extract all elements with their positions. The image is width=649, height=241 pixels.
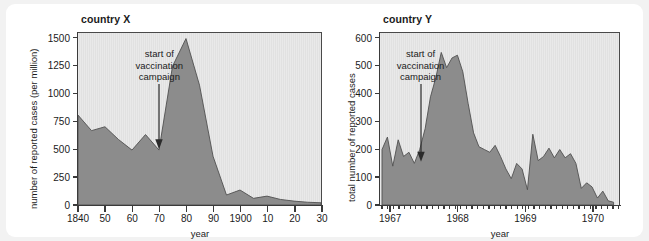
- y-tick-label: 1250: [48, 60, 70, 71]
- y-tick-label: 500: [355, 60, 372, 71]
- x-tick: [457, 206, 458, 212]
- y-tick-label: 600: [355, 32, 372, 43]
- x-tick-label: 1840: [67, 213, 89, 224]
- x-tick: [321, 206, 322, 212]
- y-tick: [73, 149, 77, 150]
- x-minor-tick: [443, 206, 444, 209]
- x-minor-tick: [398, 206, 399, 209]
- y-tick: [73, 204, 77, 205]
- y-tick-label: 750: [53, 116, 70, 127]
- x-tick: [294, 206, 295, 212]
- x-minor-tick: [573, 206, 574, 209]
- chart-page: country X number of reported cases (per …: [0, 0, 649, 241]
- y-tick-label: 0: [366, 200, 372, 211]
- x-minor-tick: [517, 206, 518, 209]
- x-tick: [159, 206, 160, 212]
- x-tick: [213, 206, 214, 212]
- x-minor-tick: [432, 206, 433, 209]
- x-tick-label: 1900: [230, 213, 252, 224]
- x-minor-tick: [393, 206, 394, 209]
- figure-country-x: country X number of reported cases (per …: [20, 4, 332, 237]
- x-tick-label: 90: [208, 213, 219, 224]
- x-tick-label: 60: [127, 213, 138, 224]
- x-tick-label: 30: [316, 213, 327, 224]
- x-tick-label: 70: [154, 213, 165, 224]
- x-tick-label: 1968: [447, 213, 469, 224]
- y-tick-label: 250: [53, 172, 70, 183]
- x-minor-tick: [455, 206, 456, 209]
- x-tick: [104, 206, 105, 212]
- x-minor-tick: [522, 206, 523, 209]
- x-minor-tick: [471, 206, 472, 209]
- x-tick: [240, 206, 241, 212]
- y-tick: [73, 176, 77, 177]
- x-axis-title-country-x: year: [78, 228, 322, 239]
- x-tick: [186, 206, 187, 212]
- x-tick: [267, 206, 268, 212]
- x-minor-tick: [567, 206, 568, 209]
- annotation-country-y: start of vaccination campaign: [377, 48, 465, 83]
- x-minor-tick: [438, 206, 439, 209]
- y-tick-label: 100: [355, 172, 372, 183]
- x-minor-tick: [584, 206, 585, 209]
- x-minor-tick: [483, 206, 484, 209]
- figure-panel: country X number of reported cases (per …: [6, 4, 643, 237]
- x-axis-title-country-y: year: [380, 228, 620, 239]
- x-axis-line-country-x: [77, 205, 323, 206]
- x-minor-tick: [404, 206, 405, 209]
- x-minor-tick: [500, 206, 501, 209]
- x-minor-tick: [601, 206, 602, 209]
- chart-title-country-x: country X: [81, 13, 130, 25]
- x-minor-tick: [618, 206, 619, 209]
- x-tick-label: 1969: [514, 213, 536, 224]
- x-minor-tick: [578, 206, 579, 209]
- x-minor-tick: [590, 206, 591, 209]
- x-tick: [525, 206, 526, 212]
- x-tick-label: 20: [289, 213, 300, 224]
- x-tick: [77, 206, 78, 212]
- y-tick-label: 300: [355, 116, 372, 127]
- x-minor-tick: [477, 206, 478, 209]
- y-tick: [375, 93, 379, 94]
- chart-title-country-y: country Y: [383, 13, 432, 25]
- x-minor-tick: [539, 206, 540, 209]
- x-tick-label: 80: [181, 213, 192, 224]
- x-minor-tick: [426, 206, 427, 209]
- x-tick-label: 1967: [379, 213, 401, 224]
- x-minor-tick: [381, 206, 382, 209]
- y-tick-label: 200: [355, 144, 372, 155]
- x-minor-tick: [488, 206, 489, 209]
- x-tick-label: 10: [262, 213, 273, 224]
- y-axis-line-country-x: [77, 32, 78, 206]
- x-tick: [389, 206, 390, 212]
- annotation-arrow-country-x: [152, 84, 166, 149]
- x-tick: [132, 206, 133, 212]
- x-minor-tick: [607, 206, 608, 209]
- x-minor-tick: [511, 206, 512, 209]
- x-minor-tick: [595, 206, 596, 209]
- annotation-arrow-country-y: [414, 84, 428, 162]
- figure-country-y: country Y total number of reported cases…: [336, 4, 636, 237]
- x-minor-tick: [612, 206, 613, 209]
- y-tick: [73, 121, 77, 122]
- y-tick: [375, 176, 379, 177]
- x-minor-tick: [556, 206, 557, 209]
- y-tick-label: 500: [53, 144, 70, 155]
- x-minor-tick: [494, 206, 495, 209]
- y-tick: [73, 93, 77, 94]
- y-tick-label: 0: [64, 200, 70, 211]
- x-minor-tick: [387, 206, 388, 209]
- y-tick-label: 400: [355, 88, 372, 99]
- y-tick: [375, 121, 379, 122]
- x-minor-tick: [562, 206, 563, 209]
- y-tick-label: 1500: [48, 32, 70, 43]
- y-tick: [375, 204, 379, 205]
- x-minor-tick: [528, 206, 529, 209]
- x-minor-tick: [505, 206, 506, 209]
- x-minor-tick: [449, 206, 450, 209]
- x-tick-label: 50: [100, 213, 111, 224]
- y-tick: [375, 149, 379, 150]
- x-minor-tick: [533, 206, 534, 209]
- x-minor-tick: [460, 206, 461, 209]
- x-minor-tick: [421, 206, 422, 209]
